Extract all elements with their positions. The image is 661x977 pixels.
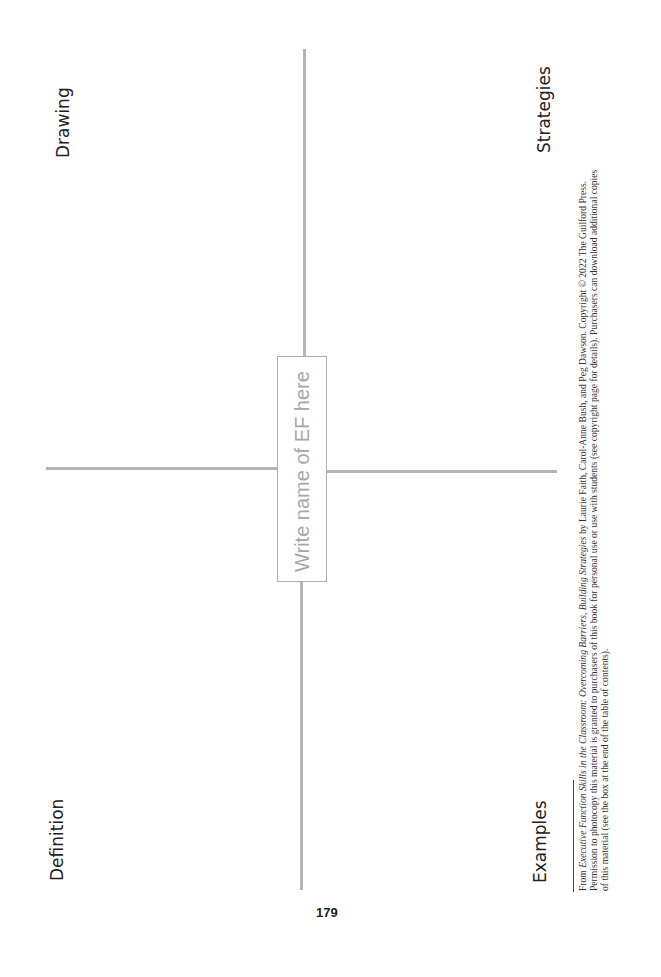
copyright-line-2: Permission to photocopy this material is… bbox=[588, 170, 599, 891]
horizontal-divider-right bbox=[327, 470, 557, 473]
copyright-line-1: From Executive Function Skills in the Cl… bbox=[577, 181, 588, 891]
book-title: Executive Function Skills in the Classro… bbox=[577, 537, 588, 868]
copyright-prefix: From bbox=[577, 868, 588, 891]
copyright-suffix: by Laurie Faith, Carol-Anne Bush, and Pe… bbox=[577, 181, 588, 537]
quadrant-label-examples: Examples bbox=[530, 800, 550, 883]
vertical-divider-bottom bbox=[300, 582, 303, 890]
page-number: 179 bbox=[316, 905, 338, 920]
ef-name-box[interactable]: Write name of EF here bbox=[277, 356, 327, 582]
vertical-divider-top bbox=[303, 49, 306, 356]
horizontal-divider-left bbox=[46, 467, 277, 470]
quadrant-label-definition: Definition bbox=[47, 799, 67, 881]
ef-name-placeholder: Write name of EF here bbox=[290, 371, 314, 572]
quadrant-label-strategies: Strategies bbox=[534, 66, 554, 153]
footer-rule bbox=[573, 780, 574, 892]
quadrant-label-drawing: Drawing bbox=[53, 87, 73, 158]
copyright-line-3: of this material (see the box at the end… bbox=[599, 649, 610, 891]
